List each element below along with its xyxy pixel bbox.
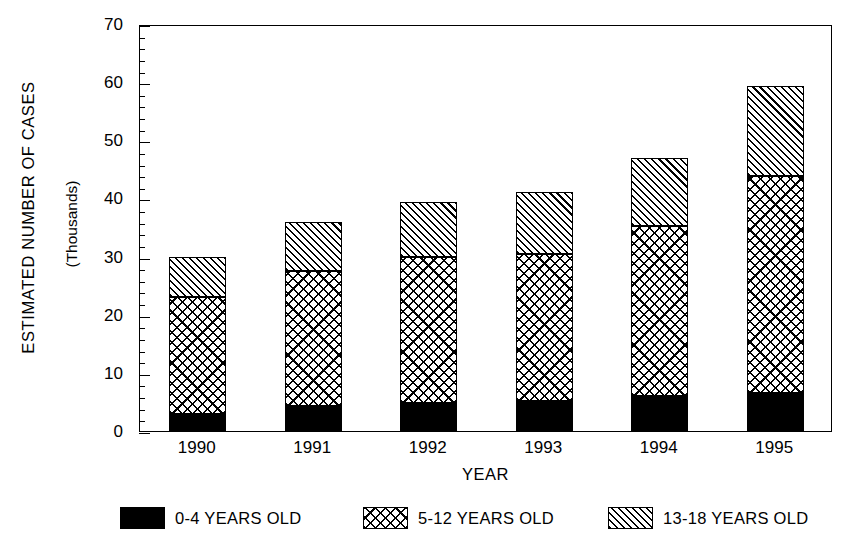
- bar-segment: [285, 406, 342, 431]
- y-tick-major: [139, 375, 150, 376]
- y-tick-minor: [139, 61, 145, 62]
- y-tick-minor: [139, 154, 145, 155]
- bar-segment: [631, 396, 688, 431]
- bar-segment: [400, 403, 457, 431]
- y-tick-minor: [139, 177, 145, 178]
- y-tick-minor: [139, 398, 145, 399]
- bar-1994: [631, 24, 688, 431]
- legend-swatch-icon: [363, 507, 408, 529]
- bar-1995: [747, 24, 804, 431]
- y-tick-minor: [139, 166, 145, 167]
- bar-segment: [516, 192, 573, 254]
- x-tick-label: 1993: [524, 438, 562, 458]
- y-tick-major: [139, 26, 150, 27]
- y-tick-minor: [139, 73, 145, 74]
- bar-segment: [747, 86, 804, 176]
- y-tick-minor: [139, 282, 145, 283]
- y-tick-minor: [139, 212, 145, 213]
- x-axis-tick-labels: 199019911992199319941995: [139, 438, 832, 464]
- x-tick-label: 1990: [178, 438, 216, 458]
- legend-item: 5-12 YEARS OLD: [363, 505, 554, 531]
- bar-segment: [400, 257, 457, 404]
- y-tick-minor: [139, 270, 145, 271]
- legend-item: 0-4 YEARS OLD: [120, 505, 301, 531]
- y-tick-minor: [139, 189, 145, 190]
- y-tick-label: 60: [104, 73, 123, 93]
- bar-segment: [631, 158, 688, 226]
- y-tick-minor: [139, 352, 145, 353]
- y-tick-minor: [139, 119, 145, 120]
- bar-segment: [169, 414, 226, 431]
- y-tick-minor: [139, 96, 145, 97]
- legend-swatch-icon: [120, 507, 165, 529]
- y-tick-minor: [139, 247, 145, 248]
- y-tick-minor: [139, 340, 145, 341]
- x-tick-label: 1991: [293, 438, 331, 458]
- y-tick-label: 30: [104, 248, 123, 268]
- y-tick-minor: [139, 107, 145, 108]
- y-tick-minor: [139, 224, 145, 225]
- y-tick-major: [139, 317, 150, 318]
- y-tick-label: 20: [104, 306, 123, 326]
- x-tick-label: 1994: [640, 438, 678, 458]
- plot-area: [139, 25, 832, 432]
- y-tick-label: 10: [104, 364, 123, 384]
- y-tick-label: 50: [104, 131, 123, 151]
- bar-segment: [285, 222, 342, 271]
- bar-segment: [400, 202, 457, 257]
- y-tick-minor: [139, 293, 145, 294]
- y-axis-tick-labels: 010203040506070: [0, 25, 131, 432]
- y-tick-major: [139, 433, 150, 434]
- bar-segment: [285, 271, 342, 406]
- chart-legend: 0-4 YEARS OLD5-12 YEARS OLD13-18 YEARS O…: [120, 505, 820, 535]
- y-tick-minor: [139, 235, 145, 236]
- bar-segment: [631, 226, 688, 396]
- bar-segment: [169, 297, 226, 413]
- legend-label: 13-18 YEARS OLD: [663, 509, 808, 528]
- y-tick-minor: [139, 328, 145, 329]
- y-tick-label: 40: [104, 189, 123, 209]
- bar-1993: [516, 24, 573, 431]
- x-tick-label: 1992: [409, 438, 447, 458]
- bar-1990: [169, 24, 226, 431]
- bar-segment: [516, 254, 573, 401]
- bar-segment: [169, 257, 226, 298]
- y-tick-label: 70: [104, 15, 123, 35]
- y-tick-minor: [139, 410, 145, 411]
- y-tick-minor: [139, 131, 145, 132]
- legend-label: 5-12 YEARS OLD: [418, 509, 554, 528]
- bar-segment: [747, 393, 804, 431]
- bar-1991: [285, 24, 342, 431]
- y-tick-label: 0: [114, 422, 123, 442]
- y-tick-major: [139, 142, 150, 143]
- bar-segment: [747, 176, 804, 393]
- bar-1992: [400, 24, 457, 431]
- legend-label: 0-4 YEARS OLD: [175, 509, 301, 528]
- bar-segment: [516, 401, 573, 431]
- legend-swatch-icon: [608, 507, 653, 529]
- y-tick-minor: [139, 421, 145, 422]
- y-tick-minor: [139, 305, 145, 306]
- y-tick-minor: [139, 386, 145, 387]
- x-tick-label: 1995: [755, 438, 793, 458]
- legend-item: 13-18 YEARS OLD: [608, 505, 808, 531]
- y-tick-major: [139, 200, 150, 201]
- y-tick-minor: [139, 49, 145, 50]
- y-tick-minor: [139, 363, 145, 364]
- y-tick-minor: [139, 38, 145, 39]
- plot-inner: [140, 26, 831, 431]
- y-tick-major: [139, 84, 150, 85]
- x-axis-title: YEAR: [139, 465, 832, 484]
- y-tick-major: [139, 259, 150, 260]
